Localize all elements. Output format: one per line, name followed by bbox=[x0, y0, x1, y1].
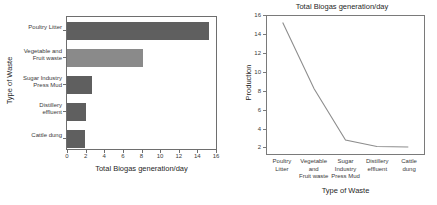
bar-category-label: Vegetable and Fruit waste bbox=[0, 48, 62, 63]
line-chart-panel: Total Biogas generation/day Production 1… bbox=[228, 0, 437, 205]
bar-x-tick-label: 0 bbox=[65, 153, 68, 159]
bar-y-tick-mark bbox=[63, 111, 66, 112]
line-y-tick-label: 4 bbox=[258, 126, 261, 132]
line-y-tick-label: 8 bbox=[258, 88, 261, 94]
line-y-tick-mark bbox=[263, 72, 266, 73]
line-y-tick-mark bbox=[263, 129, 266, 130]
line-y-tick-label: 12 bbox=[254, 50, 261, 56]
line-chart-series-svg bbox=[267, 16, 424, 154]
bar-x-tick-label: 2 bbox=[84, 153, 87, 159]
line-y-tick-mark bbox=[263, 147, 266, 148]
line-series-production bbox=[283, 23, 409, 147]
bar-category-label: Sugar Industry Press Mud bbox=[0, 75, 62, 90]
bar-category-label: Cattle dung bbox=[0, 132, 62, 140]
line-chart-x-axis-title: Type of Waste bbox=[266, 186, 425, 195]
line-y-tick-label: 6 bbox=[258, 107, 261, 113]
line-y-tick-label: 10 bbox=[254, 69, 261, 75]
bar-x-tick-label: 16 bbox=[213, 153, 220, 159]
line-y-tick-mark bbox=[263, 34, 266, 35]
bar-chart-plot-area bbox=[66, 16, 217, 150]
line-y-tick-mark bbox=[263, 110, 266, 111]
bar-chart-panel: Type of Waste 0246810121416 Poultry Litt… bbox=[0, 0, 228, 205]
bar-category-label: Distillery effluent bbox=[0, 102, 62, 117]
line-y-tick-label: 16 bbox=[254, 12, 261, 18]
line-category-label: Cattle dung bbox=[386, 158, 432, 173]
bar-poultry-litter bbox=[67, 22, 209, 40]
line-chart-plot-area bbox=[266, 15, 425, 155]
bar-y-tick-mark bbox=[63, 30, 66, 31]
bar-category-label: Poultry Litter bbox=[0, 24, 62, 32]
bar-y-tick-mark bbox=[63, 138, 66, 139]
line-y-tick-mark bbox=[263, 15, 266, 16]
figure-container: Type of Waste 0246810121416 Poultry Litt… bbox=[0, 0, 437, 205]
bar-x-tick-label: 8 bbox=[140, 153, 143, 159]
line-y-tick-label: 14 bbox=[254, 31, 261, 37]
bar-x-tick-label: 6 bbox=[121, 153, 124, 159]
bar-x-tick-label: 10 bbox=[157, 153, 164, 159]
bar-y-tick-mark bbox=[63, 84, 66, 85]
bar-chart-x-axis-title: Total Biogas generation/day bbox=[66, 164, 217, 173]
bar-x-tick-label: 14 bbox=[194, 153, 201, 159]
bar-x-tick-label: 4 bbox=[103, 153, 106, 159]
line-y-tick-mark bbox=[263, 91, 266, 92]
line-y-tick-label: 2 bbox=[258, 144, 261, 150]
line-y-tick-mark bbox=[263, 53, 266, 54]
bar-cattle-dung bbox=[67, 130, 85, 148]
bar-vegetable-fruit-waste bbox=[67, 49, 143, 67]
bar-distillery-effluent bbox=[67, 103, 86, 121]
bar-sugar-industry-press-mud bbox=[67, 76, 92, 94]
bar-y-tick-mark bbox=[63, 57, 66, 58]
line-chart-title: Total Biogas generation/day bbox=[252, 2, 432, 11]
line-chart-y-axis-title: Production bbox=[244, 51, 253, 115]
bar-x-tick-label: 12 bbox=[175, 153, 182, 159]
